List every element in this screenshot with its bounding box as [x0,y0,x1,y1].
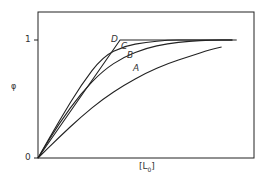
curve-label-a: A [133,63,139,73]
curve-a [38,47,222,158]
x-axis-label-text: [L [139,161,148,171]
y-tick-label-0: 0 [25,152,31,162]
chart-canvas [0,0,263,182]
curve-label-d: D [111,34,118,44]
x-axis-label-close: ] [151,161,155,171]
plot-frame [38,12,254,158]
x-axis-label: [L0] [139,161,155,173]
curve-c [38,40,232,158]
curve-b [38,40,232,158]
y-tick-label-1: 1 [25,34,31,44]
curve-label-b: B [127,50,133,60]
curve-d [38,40,237,158]
y-axis-label: φ [11,82,16,91]
